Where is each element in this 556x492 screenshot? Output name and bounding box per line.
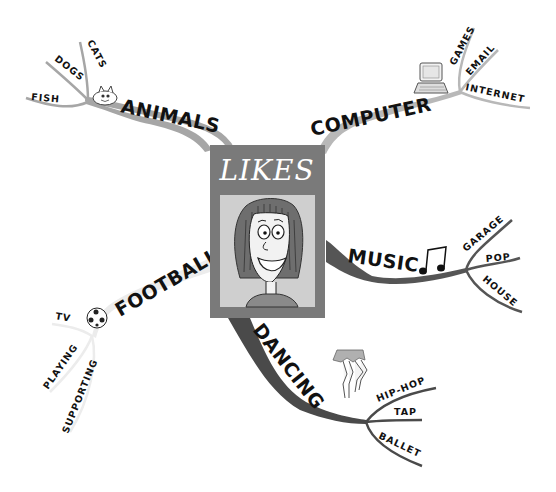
leaf-dogs: DOGS [53,53,87,83]
laptop-icon [414,63,448,93]
branch-tap-line [366,420,422,422]
cat-icon [93,86,117,105]
center-card: LIKES [210,145,325,318]
branch-football: FOOTBALL TV PLAYING SUPPORTING [41,244,223,435]
dancer-legs-icon [333,350,367,398]
branch-animals: ANIMALS FISH DOGS CATS [26,38,232,152]
leaf-supporting: SUPPORTING [60,357,100,435]
branch-music: MUSIC GARAGE POP HOUSE [326,213,522,312]
branch-tv-line [52,324,92,336]
leaf-email: EMAIL [463,42,497,78]
leaf-tap: TAP [394,406,417,417]
leaf-hiphop: HIP-HOP [375,374,428,404]
music-notes-icon [419,247,446,275]
branch-dancing: DANCING HIP-HOP TAP BALLET [228,318,436,466]
leaf-pop: POP [485,251,511,264]
branch-football-label: FOOTBALL [111,244,222,321]
leaf-tv: TV [55,310,73,324]
leaf-internet: INTERNET [465,81,527,104]
leaf-fish: FISH [31,91,61,104]
football-icon [87,308,107,328]
center-title: LIKES [218,154,314,187]
branch-computer: COMPUTER GAMES EMAIL INTERNET [308,24,530,154]
mind-map: ANIMALS FISH DOGS CATS COMPUTER GAMES EM… [0,0,556,492]
branch-animals-label: ANIMALS [119,94,222,136]
leaf-cats: CATS [85,38,109,70]
branch-computer-label: COMPUTER [308,93,433,140]
